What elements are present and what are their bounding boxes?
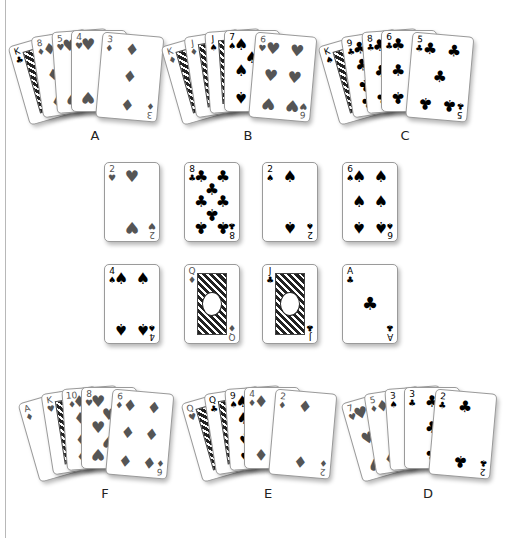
hand-label-e: E xyxy=(264,486,272,501)
suit-icon: ♦ xyxy=(188,276,196,285)
suit-pip-icon: ♠ xyxy=(352,169,366,185)
suit-icon: ♦ xyxy=(156,458,165,468)
suit-icon: ♠ xyxy=(306,221,314,230)
card-rank: 2 xyxy=(148,230,156,239)
playing-card: 2♥2♥♥♥ xyxy=(104,162,160,242)
suit-pip-icon: ♦ xyxy=(146,400,162,417)
suit-icon: ♠ xyxy=(266,174,274,183)
suit-icon: ♣ xyxy=(479,458,488,468)
suit-pip-icon: ♠ xyxy=(234,89,248,105)
card-index-bottom: Q♦ xyxy=(228,323,236,341)
suit-pip-icon: ♠ xyxy=(352,194,366,210)
playing-card: 4♠4♠♠♠♠♠ xyxy=(104,264,160,344)
playing-card: J♣J♣ xyxy=(262,264,318,344)
suit-pip-icon: ♦ xyxy=(254,394,268,410)
suit-pip-icon: ♥ xyxy=(125,169,139,185)
suit-pip-icon: ♥ xyxy=(261,94,277,111)
card-index-bottom: 3♦ xyxy=(145,101,155,120)
suit-pip-icon: ♠ xyxy=(374,194,388,210)
card-index-top: Q♣ xyxy=(208,395,219,414)
suit-pip-icon: ♦ xyxy=(293,452,309,469)
playing-card: 5♣5♣♣♣♣♣♣ xyxy=(405,32,474,123)
card-index-bottom: 2♥ xyxy=(148,221,156,239)
suit-pip-icon: ♦ xyxy=(254,446,268,462)
suit-icon: ♣ xyxy=(306,323,314,332)
playing-card: A♣A♣♣ xyxy=(342,264,398,344)
suit-pip-icon: ♠ xyxy=(283,219,297,235)
suit-pip-icon: ♠ xyxy=(136,271,150,287)
suit-pip-icon: ♦ xyxy=(120,95,136,112)
card-index-top: A♦ xyxy=(22,403,35,423)
suit-pip-icon: ♣ xyxy=(442,96,458,113)
suit-pip-icon: ♠ xyxy=(114,271,128,287)
suit-pip-icon: ♣ xyxy=(391,63,405,79)
face-card-portrait xyxy=(275,273,305,335)
hand-label-f: F xyxy=(101,486,108,501)
suit-icon: ♣ xyxy=(346,276,354,285)
suit-pip-icon: ♦ xyxy=(122,69,138,86)
suit-pip-icon: ♥ xyxy=(265,41,281,58)
card-index-top: J♦ xyxy=(188,38,199,57)
card-index-bottom: 2♦ xyxy=(318,458,328,477)
suit-icon: ♥ xyxy=(148,221,156,230)
suit-icon: ♦ xyxy=(319,458,328,468)
suit-pip-icon: ♠ xyxy=(352,219,366,235)
playing-card: 6♦6♦♦♦♦♦♦♦ xyxy=(105,389,174,480)
suit-icon: ♣ xyxy=(438,401,447,411)
suit-icon: ♣ xyxy=(386,323,394,332)
playing-card: 8♣8♣♣♣♣♣♣♣♣♣ xyxy=(184,162,240,242)
suit-pip-icon: ♣ xyxy=(453,452,469,469)
suit-pip-icon: ♦ xyxy=(297,399,313,416)
playing-card: 6♥6♥♥♥♥♥♥♥ xyxy=(248,32,317,123)
card-index-bottom: 2♠ xyxy=(306,221,314,239)
card-index-top: 2♥ xyxy=(108,165,116,183)
suit-icon: ♣ xyxy=(408,399,416,408)
suit-pip-icon: ♦ xyxy=(124,42,140,59)
suit-pip-icon: ♣ xyxy=(216,219,230,235)
playing-card: 3♦3♦♦♦♦ xyxy=(95,32,164,123)
playing-card: 2♦2♦♦♦ xyxy=(268,389,337,480)
suit-pip-icon: ♠ xyxy=(374,219,388,235)
card-index-top: 3♠ xyxy=(389,391,398,410)
suit-icon: ♦ xyxy=(25,412,35,423)
face-icon xyxy=(280,292,300,316)
card-index-bottom: J♣ xyxy=(306,323,314,341)
suit-icon: ♠ xyxy=(389,400,398,410)
suit-pip-icon: ♦ xyxy=(120,425,136,442)
card-index-top: 3♦ xyxy=(105,35,115,54)
hand-label-a: A xyxy=(91,128,100,143)
suit-pip-icon: ♣ xyxy=(432,69,448,86)
suit-pip-icon: ♠ xyxy=(374,169,388,185)
card-rank: 2 xyxy=(306,230,314,239)
suit-pip-icon: ♥ xyxy=(81,37,95,53)
face-icon xyxy=(202,292,222,316)
face-card-portrait xyxy=(197,273,227,335)
suit-icon: ♥ xyxy=(46,404,55,414)
suit-pip-icon: ♣ xyxy=(457,399,473,416)
hand-label-d: D xyxy=(423,486,433,501)
card-index-top: 3♣ xyxy=(408,390,416,408)
suit-pip-icon: ♣ xyxy=(194,219,208,235)
suit-pip-icon: ♦ xyxy=(122,398,138,415)
card-index-top: J♣ xyxy=(266,267,274,285)
hand-label-b: B xyxy=(244,128,253,143)
suit-pip-icon: ♦ xyxy=(144,427,160,444)
suit-pip-icon: ♦ xyxy=(142,453,158,470)
suit-pip-icon: ♣ xyxy=(391,37,405,53)
playing-card: 2♠2♠♠♠ xyxy=(262,162,318,242)
card-rank: A xyxy=(386,332,394,341)
suit-icon: ♣ xyxy=(456,101,465,111)
suit-pip-icon: ♠ xyxy=(234,63,248,79)
card-rank: Q xyxy=(228,332,236,341)
suit-pip-icon: ♥ xyxy=(285,96,301,113)
card-index-top: A♣ xyxy=(346,267,354,285)
suit-icon: ♥ xyxy=(299,101,308,111)
suit-pip-icon: ♥ xyxy=(81,89,95,105)
card-index-top: Q♦ xyxy=(188,267,196,285)
card-index-bottom: 2♣ xyxy=(478,458,488,477)
playing-card: Q♦Q♦ xyxy=(184,264,240,344)
suit-pip-icon: ♣ xyxy=(362,296,378,312)
suit-pip-icon: ♠ xyxy=(136,321,150,337)
suit-icon: ♦ xyxy=(146,101,155,111)
card-index-top: J♠ xyxy=(209,34,218,53)
